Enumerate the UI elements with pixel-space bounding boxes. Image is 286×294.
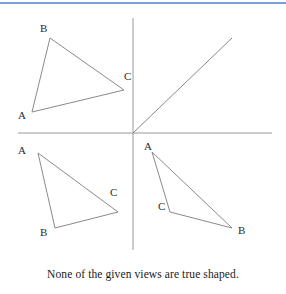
triangle-top-left: B C A	[18, 22, 131, 121]
triangle-bottom-right: A C B	[144, 140, 245, 236]
coordinate-axes	[18, 18, 272, 250]
geometry-figure: B C A A C B A C B	[0, 0, 286, 262]
quadrant-one-line	[133, 38, 232, 133]
figure-page: B C A A C B A C B None of the given view…	[0, 0, 286, 294]
vertex-label-c: C	[124, 70, 131, 82]
vertex-label-b: B	[238, 224, 245, 236]
triangle-bottom-left-outline	[38, 153, 118, 228]
vertex-label-a: A	[18, 109, 26, 121]
figure-caption: None of the given views are true shaped.	[0, 268, 286, 280]
triangle-top-left-outline	[32, 38, 124, 112]
triangle-bottom-left: A C B	[18, 144, 118, 238]
vertex-label-a: A	[144, 140, 152, 152]
vertex-label-c: C	[110, 186, 117, 198]
vertex-label-a: A	[18, 144, 26, 156]
vertex-label-c: C	[158, 200, 165, 212]
triangle-bottom-right-outline	[152, 152, 232, 228]
vertex-label-b: B	[40, 22, 47, 34]
vertex-label-b: B	[40, 226, 47, 238]
